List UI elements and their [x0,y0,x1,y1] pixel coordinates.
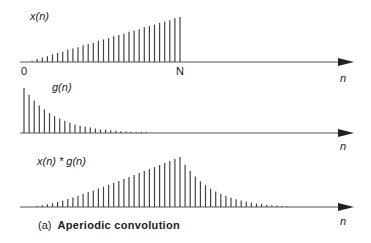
x-signal-label: x(n) [30,10,49,22]
caption: (a) Aperiodic convolution [38,219,180,231]
convolution-diagram [0,0,371,243]
caption-prefix: (a) [38,219,51,231]
conv-signal-label: x(n) * g(n) [37,155,86,167]
g-axis-arrow-icon [338,129,354,137]
g-signal-label: g(n) [52,81,72,93]
conv-axis-arrow-icon [338,203,354,211]
caption-title: Aperiodic convolution [58,219,180,231]
tick-n-label: N [176,65,184,77]
g-axis-n-label: n [340,140,346,152]
x-axis-arrow-icon [338,58,354,66]
tick-zero-label: 0 [21,65,27,77]
conv-axis-n-label: n [340,215,346,227]
x-axis-n-label: n [340,72,346,84]
